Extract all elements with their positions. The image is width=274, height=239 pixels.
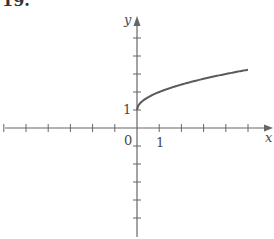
y-one-label: 1 <box>123 102 131 117</box>
y-axis-label: y <box>123 12 132 27</box>
function-curve <box>137 70 248 110</box>
x-axis-label: x <box>265 130 273 145</box>
y-axis-arrow-icon <box>134 16 141 26</box>
origin-label: 0 <box>124 133 132 148</box>
x-one-label: 1 <box>156 135 164 150</box>
problem-number: 19. <box>2 0 30 10</box>
graph: 19. 0 1 1 x y <box>0 0 274 239</box>
